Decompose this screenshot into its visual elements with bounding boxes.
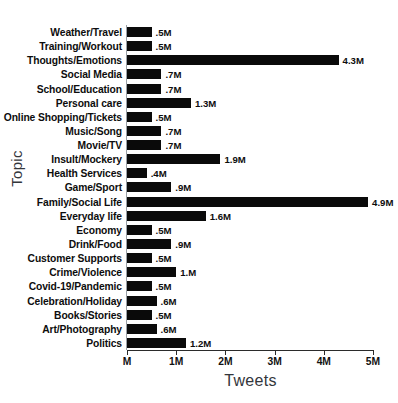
bar-row: Insult/Mockery1.9M: [127, 152, 373, 166]
bar-value-label: .5M: [156, 111, 172, 122]
bar: [127, 324, 157, 334]
bar: [127, 267, 176, 277]
bar-row: Weather/Travel.5M: [127, 25, 373, 39]
bar-row: Drink/Food.9M: [127, 237, 373, 251]
bar-value-label: 1.3M: [195, 97, 216, 108]
category-label: Crime/Violence: [49, 267, 122, 278]
bar: [127, 182, 171, 192]
category-label: Movie/TV: [78, 140, 122, 151]
bar-value-label: .5M: [156, 309, 172, 320]
x-tick-mark: [324, 350, 325, 355]
bar-chart-figure: Topic Weather/Travel.5MTraining/Workout.…: [0, 0, 398, 403]
category-label: Personal care: [56, 97, 122, 108]
category-label: Health Services: [47, 168, 122, 179]
bar: [127, 281, 152, 291]
category-label: Economy: [76, 224, 122, 235]
bar-value-label: 1.9M: [224, 154, 245, 165]
bar-row: Crime/Violence1.M: [127, 265, 373, 279]
bar-row: Covid-19/Pandemic.5M: [127, 279, 373, 293]
category-label: Politics: [86, 337, 122, 348]
bar-row: Thoughts/Emotions4.3M: [127, 53, 373, 67]
category-label: Music/Song: [65, 125, 122, 136]
category-label: Game/Sport: [65, 182, 122, 193]
bar-row: Books/Stories.5M: [127, 308, 373, 322]
bar-value-label: .4M: [151, 168, 167, 179]
category-label: Social Media: [61, 69, 122, 80]
bar-value-label: .7M: [165, 83, 181, 94]
y-axis-title: Topic: [8, 129, 25, 209]
bar: [127, 211, 206, 221]
bar-row: Customer Supports.5M: [127, 251, 373, 265]
x-tick-mark: [275, 350, 276, 355]
bar-row: Personal care1.3M: [127, 96, 373, 110]
bar: [127, 310, 152, 320]
bar: [127, 239, 171, 249]
x-tick-label: 3M: [267, 356, 281, 367]
category-label: Art/Photography: [42, 323, 122, 334]
bar-value-label: .7M: [165, 125, 181, 136]
x-tick-label: 5M: [366, 356, 380, 367]
bar-value-label: .9M: [175, 239, 191, 250]
bar-row: Social Media.7M: [127, 67, 373, 81]
bar-row: Everyday life1.6M: [127, 209, 373, 223]
category-label: Celebration/Holiday: [27, 295, 122, 306]
category-label: Training/Workout: [39, 41, 122, 52]
x-axis-title: Tweets: [127, 372, 374, 390]
bar: [127, 154, 220, 164]
bar: [127, 168, 147, 178]
bar: [127, 112, 152, 122]
bar-value-label: 4.9M: [372, 196, 393, 207]
bar: [127, 253, 152, 263]
bar-value-label: .7M: [165, 69, 181, 80]
bar-value-label: .9M: [175, 182, 191, 193]
bar: [127, 55, 339, 65]
bar-value-label: 4.3M: [343, 55, 364, 66]
bar: [127, 41, 152, 51]
top-caption: [18, 0, 248, 8]
bar: [127, 27, 152, 37]
bar-value-label: .6M: [161, 323, 177, 334]
bar: [127, 140, 161, 150]
category-label: Thoughts/Emotions: [27, 55, 122, 66]
bar-row: Movie/TV.7M: [127, 138, 373, 152]
bar-value-label: .5M: [156, 224, 172, 235]
bar-row: Politics1.2M: [127, 336, 373, 350]
bar-value-label: .6M: [161, 295, 177, 306]
bar-value-label: .7M: [165, 140, 181, 151]
bar-value-label: .5M: [156, 281, 172, 292]
bar: [127, 126, 161, 136]
x-tick-label: 1M: [169, 356, 183, 367]
x-tick-mark: [373, 350, 374, 355]
bar: [127, 98, 191, 108]
x-tick-label: 4M: [317, 356, 331, 367]
x-tick-mark: [127, 350, 128, 355]
bar-row: Game/Sport.9M: [127, 180, 373, 194]
plot-area: Weather/Travel.5MTraining/Workout.5MThou…: [127, 25, 373, 350]
bar-row: Online Shopping/Tickets.5M: [127, 110, 373, 124]
bar-value-label: 1.2M: [190, 337, 211, 348]
x-tick-label: 2M: [218, 356, 232, 367]
bar: [127, 197, 368, 207]
category-label: Everyday life: [60, 210, 122, 221]
bar-row: Training/Workout.5M: [127, 39, 373, 53]
bar: [127, 225, 152, 235]
bar: [127, 69, 161, 79]
category-label: Insult/Mockery: [51, 154, 122, 165]
category-label: Covid-19/Pandemic: [29, 281, 122, 292]
bar-row: Family/Social Life4.9M: [127, 195, 373, 209]
category-label: Drink/Food: [69, 239, 122, 250]
bar-row: Celebration/Holiday.6M: [127, 293, 373, 307]
category-label: School/Education: [37, 83, 122, 94]
bar-row: Art/Photography.6M: [127, 322, 373, 336]
bar-value-label: .5M: [156, 253, 172, 264]
bar: [127, 84, 161, 94]
bar-row: Health Services.4M: [127, 166, 373, 180]
bar-row: Economy.5M: [127, 223, 373, 237]
bar-value-label: .5M: [156, 27, 172, 38]
bar-row: Music/Song.7M: [127, 124, 373, 138]
category-label: Weather/Travel: [50, 27, 122, 38]
x-tick-mark: [176, 350, 177, 355]
category-label: Customer Supports: [28, 253, 122, 264]
bar-row: School/Education.7M: [127, 82, 373, 96]
bar: [127, 338, 186, 348]
